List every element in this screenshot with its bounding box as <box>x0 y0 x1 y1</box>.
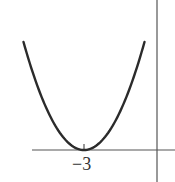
parabola-curve <box>24 42 145 150</box>
x-tick-label-neg3: −3 <box>72 155 91 173</box>
